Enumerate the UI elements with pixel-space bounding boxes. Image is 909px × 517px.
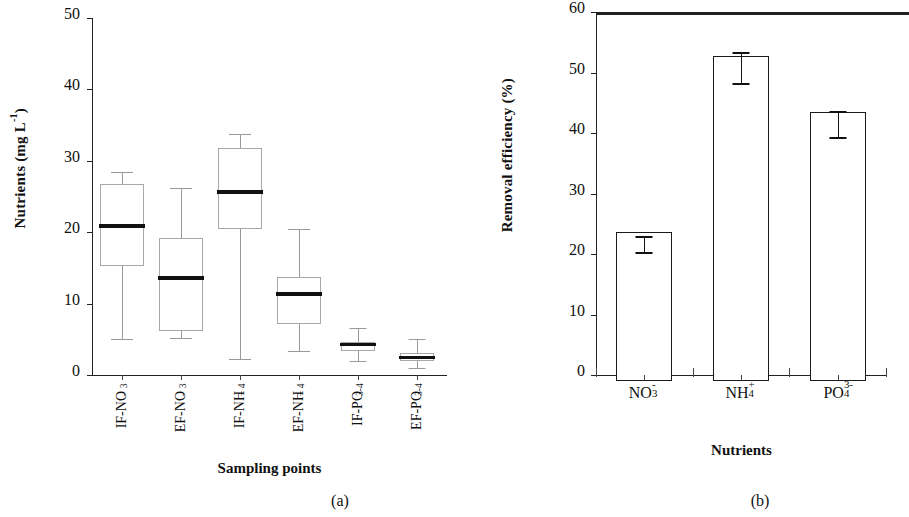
panel-b-x-tick-boundary: [886, 368, 887, 377]
panel-b-y-tick-label: 60: [543, 3, 585, 13]
box-plot-group: [273, 18, 325, 375]
panel-b-x-tick-mark: [838, 375, 839, 381]
panel-a-y-tick-label: 30: [38, 152, 80, 162]
box-plot-group: [96, 18, 148, 375]
whisker-cap-lower: [350, 361, 367, 362]
panel-b-y-tick-label: 30: [543, 185, 585, 195]
box-plot-group: [332, 18, 384, 375]
panel-b-y-tick-label: 0: [543, 366, 585, 376]
panel-b-y-tick-label: 40: [543, 124, 585, 134]
whisker-lower: [181, 331, 182, 338]
panel-b-y-axis-label: Removal efficiency (%): [499, 78, 516, 232]
panel-b-barchart: Removal efficiency (%) 0102030405060 NO3…: [455, 0, 909, 517]
y-axis-label-exponent-a: -1: [8, 113, 19, 122]
panel-a-boxplot: Nutrients (mg L-1) 01020304050 IF-NO3-3E…: [0, 0, 455, 517]
panel-b-x-category-label: NH4+4: [696, 384, 786, 402]
panel-a-y-axis-label: Nutrients (mg L-1): [8, 108, 29, 228]
panel-b-x-tick-mark: [644, 375, 645, 381]
panel-a-x-category-label: EF-NO3-3: [173, 384, 189, 432]
panel-a-x-category-label: IF-PO43-4: [350, 384, 366, 426]
whisker-lower: [122, 266, 123, 340]
error-bar-cap-lower: [733, 83, 750, 85]
panel-b-y-tick-label: 20: [543, 245, 585, 255]
panel-a-x-tick-mark: [181, 375, 182, 380]
whisker-upper: [122, 172, 123, 184]
box-median-line: [340, 343, 376, 346]
error-bar-cap-lower: [829, 137, 846, 139]
panel-a-x-tick-mark: [299, 375, 300, 380]
box-plot-group: [391, 18, 443, 375]
panel-a-x-tick-mark: [240, 375, 241, 380]
panel-a-x-category-label: EF-NH4+4: [291, 384, 307, 432]
box-plot-group: [155, 18, 207, 375]
panel-a-y-tick-label: 40: [38, 80, 80, 90]
whisker-cap-upper: [229, 134, 251, 135]
panel-a-caption: (a): [310, 492, 370, 510]
whisker-cap-lower: [409, 368, 426, 369]
whisker-cap-upper: [409, 339, 426, 340]
box-median-line: [399, 356, 435, 359]
error-bar: [713, 18, 769, 381]
box-median-line: [217, 190, 263, 194]
panel-a-x-tick-mark: [358, 375, 359, 380]
whisker-cap-lower: [111, 339, 133, 340]
panel-a-x-tick-mark: [122, 375, 123, 380]
panel-a-x-axis-line: [92, 375, 447, 376]
panel-b-x-tick-boundary: [596, 368, 597, 377]
whisker-upper: [358, 328, 359, 342]
box-median-line: [158, 276, 204, 280]
panel-a-y-tick-label: 20: [38, 223, 80, 233]
panel-a-y-tick-label: 0: [38, 366, 80, 376]
box-median-line: [99, 224, 145, 228]
whisker-upper: [417, 339, 418, 353]
panel-b-x-tick-boundary: [789, 368, 790, 377]
whisker-upper: [299, 229, 300, 277]
panel-b-plot-area: [596, 18, 886, 375]
panel-b-top-frame-line: [596, 12, 909, 15]
whisker-cap-upper: [170, 188, 192, 189]
whisker-cap-upper: [350, 328, 367, 329]
panel-b-x-category-label: PO43-4: [793, 384, 883, 402]
error-bar-cap-upper: [829, 111, 846, 113]
error-bar-cap-lower: [636, 252, 653, 254]
panel-b-y-tick-label: 50: [543, 64, 585, 74]
whisker-lower: [240, 229, 241, 359]
figure-root: Nutrients (mg L-1) 01020304050 IF-NO3-3E…: [0, 0, 909, 517]
panel-b-x-axis-label: Nutrients: [596, 442, 887, 459]
panel-b-x-tick-mark: [741, 375, 742, 381]
panel-a-plot-area: [92, 18, 447, 375]
whisker-lower: [299, 324, 300, 351]
y-axis-label-close-a: ): [12, 108, 28, 113]
y-axis-label-text-a: Nutrients (mg L: [12, 122, 28, 228]
panel-b-x-category-label: NO3-3: [599, 384, 689, 402]
panel-b-y-tick-label: 10: [543, 306, 585, 316]
error-bar: [616, 18, 672, 381]
panel-a-x-tick-mark: [417, 375, 418, 380]
whisker-cap-upper: [288, 229, 310, 230]
box-iqr: [277, 277, 321, 324]
panel-b-x-tick-boundary: [693, 368, 694, 377]
box-plot-group: [214, 18, 266, 375]
error-bar-cap-upper: [636, 236, 653, 238]
panel-a-y-tick-label: 10: [38, 295, 80, 305]
error-bar-line: [741, 52, 742, 82]
panel-a-y-tick-label: 50: [38, 9, 80, 19]
whisker-cap-lower: [170, 338, 192, 339]
error-bar-line: [644, 236, 645, 252]
error-bar-cap-upper: [733, 52, 750, 54]
panel-b-caption: (b): [730, 492, 790, 510]
box-median-line: [276, 292, 322, 296]
whisker-upper: [181, 188, 182, 238]
panel-a-x-axis-label: Sampling points: [92, 460, 447, 477]
whisker-cap-lower: [288, 351, 310, 352]
error-bar-line: [838, 111, 839, 138]
box-iqr: [159, 238, 203, 331]
whisker-cap-lower: [229, 359, 251, 360]
panel-a-x-category-label: EF-PO43-4: [409, 384, 425, 430]
whisker-upper: [240, 134, 241, 148]
whisker-cap-upper: [111, 172, 133, 173]
whisker-lower: [358, 351, 359, 360]
panel-a-x-category-label: IF-NO3-3: [114, 384, 130, 428]
panel-a-x-category-label: IF-NH4+4: [232, 384, 248, 428]
error-bar: [810, 18, 866, 381]
